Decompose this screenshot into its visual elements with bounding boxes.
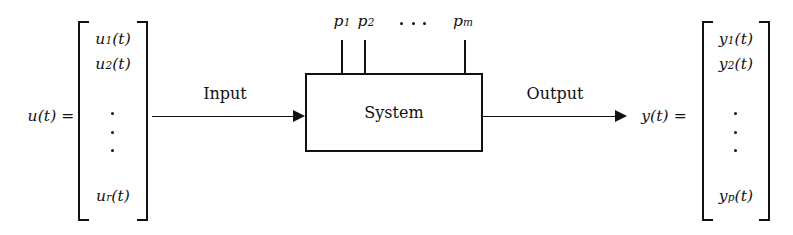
system-block-label: System: [305, 103, 483, 123]
ellipsis-dot: [734, 149, 737, 152]
output-vector-element-1: y1(t): [705, 30, 767, 50]
output-element-2-subscript: 2: [728, 60, 735, 71]
output-element-2-arg: (t): [735, 57, 754, 73]
output-arrow-label: Output: [515, 84, 595, 104]
ellipsis-dot: [412, 22, 415, 25]
ellipsis-dot: [734, 112, 737, 115]
parameter-label-m: pm: [448, 12, 478, 32]
ellipsis-dot: [400, 22, 403, 25]
output-vector-element-last: yp(t): [705, 187, 767, 207]
input-element-last-base: u: [96, 189, 106, 205]
output-element-1-arg: (t): [735, 32, 754, 48]
input-vector-vertical-ellipsis-icon: [111, 112, 114, 152]
output-vector-element-2: y2(t): [705, 55, 767, 75]
input-element-last-arg: (t): [111, 189, 130, 205]
input-element-1-arg: (t): [112, 32, 131, 48]
input-vector-label: u(t) =: [24, 107, 78, 127]
parameter-label-1: p1: [329, 12, 355, 32]
input-element-2-base: u: [95, 57, 105, 73]
system-block-diagram: u(t) = u1(t) u2(t) ur(t) Input p1 p2 pm …: [0, 0, 793, 235]
parameter-m-subscript: m: [463, 17, 473, 28]
input-element-2-subscript: 2: [105, 60, 112, 71]
output-vector-label: y(t) =: [636, 107, 692, 127]
parameter-1-subscript: 1: [344, 17, 351, 28]
ellipsis-dot: [111, 112, 114, 115]
input-element-2-arg: (t): [112, 57, 131, 73]
parameter-2-base: p: [358, 14, 368, 30]
parameter-stub-1: [341, 40, 343, 74]
ellipsis-dot: [111, 149, 114, 152]
input-arrow-head-icon: [293, 110, 305, 122]
output-arrow-head-icon: [615, 110, 627, 122]
parameter-stub-m: [464, 40, 466, 74]
output-element-1-base: y: [719, 32, 728, 48]
input-vector-element-2: u2(t): [82, 55, 144, 75]
parameter-label-2: p2: [353, 12, 379, 32]
parameter-horizontal-ellipsis-icon: [400, 22, 426, 25]
input-vector-element-last: ur(t): [82, 187, 144, 207]
input-arrow-label: Input: [190, 84, 260, 104]
ellipsis-dot: [734, 131, 737, 134]
output-vector-vertical-ellipsis-icon: [734, 112, 737, 152]
ellipsis-dot: [111, 131, 114, 134]
parameter-m-base: p: [453, 14, 463, 30]
output-element-last-subscript: p: [728, 192, 735, 203]
output-element-last-base: y: [719, 189, 728, 205]
output-element-2-base: y: [719, 57, 728, 73]
input-vector-element-1: u1(t): [82, 30, 144, 50]
output-element-last-arg: (t): [735, 189, 754, 205]
parameter-stub-2: [364, 40, 366, 74]
parameter-1-base: p: [334, 14, 344, 30]
output-element-1-subscript: 1: [728, 35, 735, 46]
input-arrow-line: [152, 116, 294, 117]
ellipsis-dot: [423, 22, 426, 25]
input-element-1-base: u: [95, 32, 105, 48]
output-arrow-line: [483, 116, 616, 117]
input-element-1-subscript: 1: [105, 35, 112, 46]
parameter-2-subscript: 2: [368, 17, 375, 28]
